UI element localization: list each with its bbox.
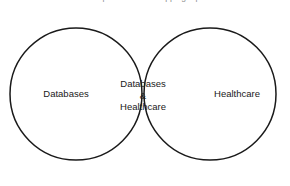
intersection-label-line-1: Databases	[108, 78, 178, 90]
right-set-label: Healthcare	[186, 88, 288, 99]
intersection-label-line-2: &	[108, 90, 178, 102]
left-set-label: Databases	[14, 88, 118, 99]
venn-diagram-figure: a comparison of overlapping topics Datab…	[0, 0, 290, 186]
intersection-label: Databases & Healthcare	[108, 78, 178, 113]
intersection-label-line-3: Healthcare	[108, 101, 178, 113]
